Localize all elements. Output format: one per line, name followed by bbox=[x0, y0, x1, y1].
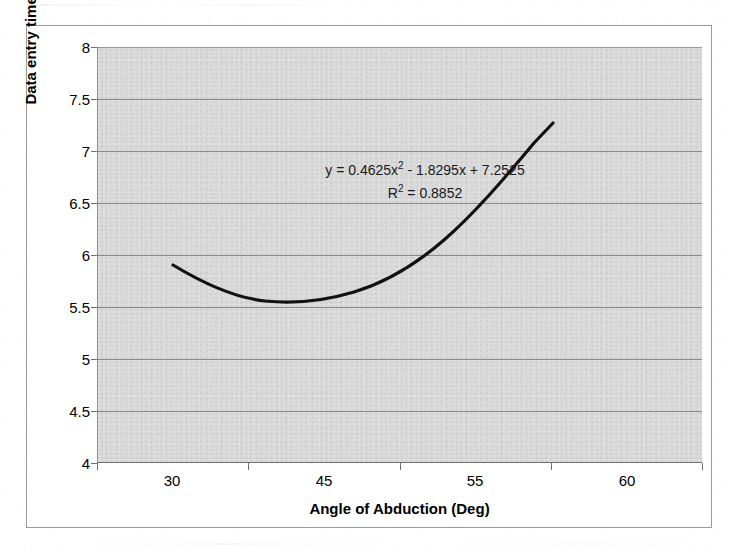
ytick-mark-6.5 bbox=[91, 203, 97, 204]
plot-area bbox=[97, 47, 702, 463]
trendline-annotation: y = 0.4625x2 - 1.8295x + 7.2525 R2 = 0.8… bbox=[300, 158, 550, 205]
ytick-mark-7.5 bbox=[91, 99, 97, 100]
r-squared-prefix: R bbox=[388, 185, 398, 201]
xtick-label-55: 55 bbox=[430, 472, 520, 489]
xtick-mark-1 bbox=[248, 463, 249, 470]
xtick-label-45: 45 bbox=[279, 472, 369, 489]
scan-artifact-bottom bbox=[60, 543, 720, 545]
trendline-r-squared: R2 = 0.8852 bbox=[300, 181, 550, 204]
equation-prefix: y = 0.4625x bbox=[325, 162, 398, 178]
ytick-mark-6 bbox=[91, 255, 97, 256]
x-axis-title: Angle of Abduction (Deg) bbox=[97, 500, 702, 517]
xtick-mark-3 bbox=[551, 463, 552, 470]
trendline-curve bbox=[98, 47, 702, 463]
ytick-label-8: 8 bbox=[30, 39, 90, 56]
ytick-label-6: 6 bbox=[30, 247, 90, 264]
ytick-label-5.5: 5.5 bbox=[30, 299, 90, 316]
ytick-mark-7 bbox=[91, 151, 97, 152]
ytick-label-4.5: 4.5 bbox=[30, 403, 90, 420]
ytick-mark-4.5 bbox=[91, 411, 97, 412]
ytick-label-7.5: 7.5 bbox=[30, 91, 90, 108]
equation-suffix: - 1.8295x + 7.2525 bbox=[404, 162, 525, 178]
ytick-mark-5 bbox=[91, 359, 97, 360]
xtick-mark-2 bbox=[400, 463, 401, 470]
r-squared-suffix: = 0.8852 bbox=[403, 185, 462, 201]
ytick-mark-5.5 bbox=[91, 307, 97, 308]
scan-artifact-top bbox=[40, 4, 340, 6]
xtick-mark-0 bbox=[97, 463, 98, 470]
ytick-label-6.5: 6.5 bbox=[30, 195, 90, 212]
trendline-equation: y = 0.4625x2 - 1.8295x + 7.2525 bbox=[300, 158, 550, 181]
xtick-mark-4 bbox=[702, 463, 703, 470]
ytick-label-5: 5 bbox=[30, 351, 90, 368]
xtick-label-60: 60 bbox=[582, 472, 672, 489]
ytick-mark-8 bbox=[91, 47, 97, 48]
y-axis-title: Data entry time (min) bbox=[22, 0, 39, 150]
xtick-label-30: 30 bbox=[127, 472, 217, 489]
ytick-label-4: 4 bbox=[30, 455, 90, 472]
ytick-label-7: 7 bbox=[30, 143, 90, 160]
